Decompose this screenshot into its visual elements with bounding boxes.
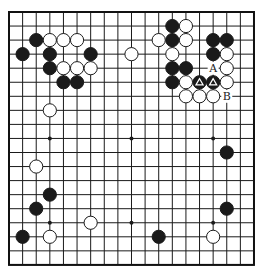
black-stone	[220, 146, 233, 159]
black-stone	[220, 34, 233, 47]
white-stone	[70, 62, 83, 75]
star-point	[211, 136, 215, 140]
black-stone	[30, 202, 43, 215]
black-stone	[16, 48, 29, 61]
white-stone	[70, 34, 83, 47]
star-point	[48, 221, 52, 225]
black-stone	[152, 230, 165, 243]
white-stone	[207, 230, 220, 243]
point-label-a: A	[208, 62, 218, 75]
white-stone	[43, 104, 56, 117]
go-board-diagram: AB	[0, 0, 263, 274]
white-stone	[57, 62, 70, 75]
black-stone	[70, 76, 83, 89]
black-stone	[166, 34, 179, 47]
white-stone	[152, 34, 165, 47]
go-board: AB	[0, 0, 263, 274]
black-stone	[43, 48, 56, 61]
white-stone	[220, 48, 233, 61]
white-stone	[220, 76, 233, 89]
black-stone	[220, 202, 233, 215]
black-stone	[43, 62, 56, 75]
star-point	[211, 221, 215, 225]
black-stone	[84, 48, 97, 61]
white-stone	[179, 34, 192, 47]
black-stone	[166, 19, 179, 32]
white-stone	[84, 216, 97, 229]
white-stone	[166, 48, 179, 61]
black-stone	[16, 230, 29, 243]
stones-layer	[16, 19, 233, 243]
black-stone	[166, 62, 179, 75]
white-stone	[84, 62, 97, 75]
point-label-b: B	[223, 90, 231, 103]
white-stone	[57, 34, 70, 47]
white-stone	[193, 90, 206, 103]
white-stone	[43, 34, 56, 47]
star-point	[129, 221, 133, 225]
black-stone	[43, 188, 56, 201]
white-stone	[179, 76, 192, 89]
white-stone	[125, 48, 138, 61]
white-stone	[179, 90, 192, 103]
black-stone	[30, 34, 43, 47]
star-point	[48, 136, 52, 140]
white-stone	[43, 230, 56, 243]
black-stone	[207, 34, 220, 47]
white-stone	[179, 19, 192, 32]
white-stone	[207, 90, 220, 103]
star-point	[129, 136, 133, 140]
white-stone	[220, 62, 233, 75]
black-stone	[57, 76, 70, 89]
black-stone	[179, 62, 192, 75]
black-stone	[166, 76, 179, 89]
white-stone	[30, 160, 43, 173]
black-stone	[207, 48, 220, 61]
